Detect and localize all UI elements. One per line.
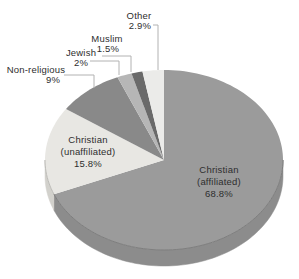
label-christian-affiliated: 68.8% [205,188,233,199]
label-christian-affiliated: (affiliated) [197,176,241,187]
label-christian-unaffiliated: Christian [68,134,107,145]
label-non-religious-leader-line [64,75,94,88]
pie-chart: Other2.9%Muslim1.5%Jewish2%Non-religious… [0,0,299,279]
label-christian-unaffiliated: 15.8% [74,158,102,169]
religious-affiliation-pie-figure: Other2.9%Muslim1.5%Jewish2%Non-religious… [0,0,299,279]
label-jewish: 2% [74,57,88,68]
label-muslim-leader-line [102,56,131,72]
label-christian-unaffiliated: (unaffiliated) [61,146,116,157]
label-muslim: 1.5% [97,43,120,54]
label-christian-affiliated: Christian [199,164,238,175]
label-other-leader-line [153,25,158,70]
label-other: 2.9% [129,20,152,31]
label-jewish-leader-line [90,61,119,75]
label-non-religious: 9% [46,74,60,85]
